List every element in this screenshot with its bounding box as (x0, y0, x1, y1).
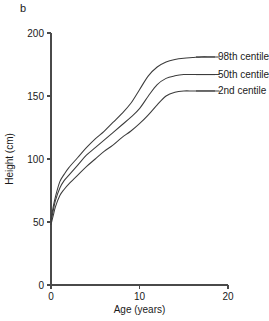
y-tick-label-100: 100 (27, 154, 44, 165)
chart-canvas: 05010015020001020 98th centile50th centi… (0, 0, 269, 321)
growth-chart-figure: b 05010015020001020 98th centile50th cen… (0, 0, 269, 321)
x-tick-label-0: 0 (48, 291, 54, 302)
x-tick-label-20: 20 (222, 291, 234, 302)
x-axis-title: Age (years) (114, 304, 166, 315)
y-tick-label-50: 50 (33, 217, 45, 228)
chart-series (51, 57, 219, 225)
series-line-0 (51, 57, 219, 220)
y-tick-label-200: 200 (27, 28, 44, 39)
y-tick-label-150: 150 (27, 91, 44, 102)
series-label-0: 98th centile (218, 51, 269, 62)
y-tick-label-0: 0 (38, 280, 44, 291)
chart-axes: 05010015020001020 (27, 28, 234, 303)
series-label-1: 50th centile (218, 69, 269, 80)
x-tick-label-10: 10 (134, 291, 146, 302)
series-line-2 (51, 91, 219, 225)
chart-series-labels: 98th centile50th centile2nd centile (218, 51, 269, 96)
series-label-2: 2nd centile (218, 85, 267, 96)
y-axis-title: Height (cm) (4, 133, 15, 185)
